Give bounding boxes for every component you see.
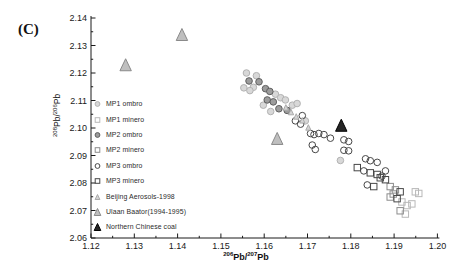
- legend-item-mp3_ombro: MP3 ombro: [92, 158, 186, 173]
- data-point-mp1_ombro: [282, 97, 289, 104]
- legend-marker-triangle-icon: [92, 206, 103, 217]
- legend-marker-mp3_ombro: [95, 163, 100, 168]
- legend-marker-ulaan_baator: [94, 208, 101, 215]
- legend-label: MP3 minero: [106, 177, 144, 184]
- svg-text:2.14: 2.14: [69, 13, 87, 23]
- data-point-mp3_minero: [371, 183, 377, 189]
- data-point-mp1_ombro: [294, 100, 301, 107]
- data-point-mp3_minero: [367, 170, 373, 176]
- data-point-mp3_ombro: [327, 135, 334, 142]
- svg-text:2.10: 2.10: [69, 123, 87, 133]
- legend-marker-square-icon: [92, 114, 103, 125]
- legend-marker-mp2_minero: [95, 148, 100, 153]
- legend-item-northern_chinese_coal: Northern Chinese coal: [92, 219, 186, 234]
- data-point-ulaan_baator: [176, 29, 187, 41]
- legend-marker-triangle-icon: [92, 221, 103, 232]
- data-point-mp2_ombro: [267, 88, 274, 95]
- data-point-mp3_ombro: [382, 168, 389, 175]
- svg-text:1.13: 1.13: [126, 241, 144, 251]
- legend-marker-square-icon: [92, 144, 103, 155]
- svg-text:2.07: 2.07: [69, 206, 87, 216]
- data-point-mp3_minero: [354, 164, 360, 170]
- legend-item-mp2_ombro: MP2 ombro: [92, 127, 186, 142]
- data-point-mp2_ombro: [270, 99, 277, 106]
- data-point-beijing_aerosols: [283, 105, 288, 111]
- legend-marker-triangle-icon: [92, 191, 103, 202]
- isotope-text: Pb: [52, 94, 62, 104]
- legend-marker-mp1_ombro: [95, 102, 100, 107]
- isotope-text: Pb/: [52, 114, 62, 127]
- isotope-superscript: 206: [52, 104, 58, 114]
- data-series-mp1_minero: [399, 189, 422, 218]
- legend-marker-mp2_ombro: [95, 133, 100, 138]
- data-point-mp2_ombro: [246, 78, 253, 85]
- legend-item-mp1_minero: MP1 minero: [92, 111, 186, 126]
- svg-text:1.17: 1.17: [299, 241, 317, 251]
- data-point-mp3_minero: [397, 189, 403, 195]
- legend-marker-square-icon: [92, 175, 103, 186]
- legend-marker-mp3_minero: [95, 179, 100, 184]
- data-point-ulaan_baator: [120, 59, 131, 71]
- legend-item-ulaan_baator: Ulaan Baator(1994-1995): [92, 204, 186, 219]
- figure-panel: (C) 1.121.131.141.151.161.171.181.191.20…: [0, 0, 465, 280]
- svg-text:1.15: 1.15: [212, 241, 230, 251]
- svg-text:1.20: 1.20: [429, 241, 447, 251]
- isotope-text: Pb: [257, 252, 269, 262]
- x-axis-title: 206Pb/207Pb: [196, 251, 296, 262]
- svg-text:1.16: 1.16: [255, 241, 273, 251]
- legend-label: Beijing Aerosols-1998: [106, 193, 175, 200]
- svg-text:2.06: 2.06: [69, 233, 87, 243]
- data-point-mp3_ombro: [374, 159, 381, 166]
- legend-label: MP2 ombro: [106, 131, 143, 138]
- y-axis-title: 208Pb/206Pb: [52, 79, 63, 151]
- isotope-superscript: 208: [52, 127, 58, 137]
- x-axis-ticks: 1.121.131.141.151.161.171.181.191.20: [82, 234, 446, 252]
- svg-text:2.08: 2.08: [69, 178, 87, 188]
- data-point-mp3_ombro: [345, 148, 352, 155]
- data-point-beijing_aerosols: [294, 114, 299, 120]
- data-point-mp2_ombro: [276, 105, 283, 112]
- legend-marker-beijing_aerosols: [95, 194, 100, 199]
- data-point-mp3_ombro: [360, 168, 367, 175]
- legend-marker-circle-icon: [92, 129, 103, 140]
- isotope-text: Pb/: [233, 252, 247, 262]
- data-point-mp1_ombro: [337, 157, 344, 164]
- legend-item-beijing_aerosols: Beijing Aerosols-1998: [92, 188, 186, 203]
- data-point-mp1_ombro: [247, 87, 254, 94]
- svg-text:1.19: 1.19: [385, 241, 403, 251]
- data-point-beijing_aerosols: [306, 125, 311, 131]
- legend-label: MP1 minero: [106, 116, 144, 123]
- scatter-plot: 1.121.131.141.151.161.171.181.191.202.06…: [0, 0, 465, 280]
- legend-marker-northern_chinese_coal: [94, 224, 101, 231]
- legend-item-mp3_minero: MP3 minero: [92, 173, 186, 188]
- legend-label: Ulaan Baator(1994-1995): [106, 208, 186, 215]
- data-series-northern_chinese_coal: [336, 119, 347, 131]
- legend-marker-circle-icon: [92, 98, 103, 109]
- svg-text:2.12: 2.12: [69, 68, 87, 78]
- svg-text:2.13: 2.13: [69, 41, 87, 51]
- legend-label: MP1 ombro: [106, 100, 143, 107]
- legend-item-mp1_ombro: MP1 ombro: [92, 96, 186, 111]
- svg-text:1.14: 1.14: [169, 241, 187, 251]
- data-point-mp1_ombro: [267, 108, 274, 115]
- data-point-mp3_ombro: [364, 182, 371, 189]
- legend-label: MP2 minero: [106, 146, 144, 153]
- data-point-mp2_ombro: [256, 79, 263, 86]
- legend-marker-mp1_minero: [95, 117, 100, 122]
- data-point-ulaan_baator: [271, 132, 282, 144]
- legend: MP1 ombroMP1 mineroMP2 ombroMP2 mineroMP…: [92, 96, 186, 235]
- data-point-mp1_minero: [409, 201, 415, 207]
- legend-label: MP3 ombro: [106, 162, 143, 169]
- isotope-superscript: 206: [223, 251, 233, 257]
- data-point-northern_chinese_coal: [336, 119, 347, 131]
- legend-label: Northern Chinese coal: [106, 223, 177, 230]
- svg-text:2.09: 2.09: [69, 151, 87, 161]
- svg-text:2.11: 2.11: [70, 96, 87, 106]
- data-point-mp1_ombro: [243, 70, 250, 77]
- legend-marker-circle-icon: [92, 160, 103, 171]
- svg-text:1.18: 1.18: [342, 241, 360, 251]
- legend-item-mp2_minero: MP2 minero: [92, 142, 186, 157]
- isotope-superscript: 207: [247, 251, 257, 257]
